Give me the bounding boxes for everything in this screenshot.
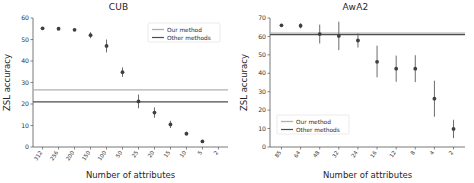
- y-axis-label: ZSL accuracy: [2, 54, 12, 111]
- x-tick-label: 5: [196, 150, 203, 156]
- y-tick-label: 30: [258, 88, 266, 95]
- data-point: [73, 28, 77, 32]
- x-tick-label: 64: [293, 149, 302, 159]
- x-tick-label: 8: [409, 149, 416, 156]
- data-point: [201, 140, 205, 144]
- y-tick-label: 0: [262, 143, 266, 150]
- legend-label-other-methods: Other methods: [167, 35, 211, 41]
- x-tick-label: 312: [33, 150, 44, 162]
- x-tick-label: 2: [212, 150, 219, 156]
- legend-label-our-method: Our method: [167, 27, 202, 33]
- y-tick-label: 10: [21, 122, 29, 129]
- x-tick-label: 15: [162, 150, 171, 159]
- data-point: [185, 132, 189, 136]
- data-point: [57, 27, 61, 31]
- x-tick-label: 48: [312, 149, 321, 159]
- data-point: [153, 111, 157, 115]
- plot-area-cub: 0102030405060312256200150100502520151052…: [0, 0, 237, 183]
- figure-two-panel-chart: CUB 010203040506031225620015010050252015…: [0, 0, 474, 183]
- y-tick-label: 30: [21, 79, 29, 86]
- panel-cub: CUB 010203040506031225620015010050252015…: [0, 0, 237, 183]
- data-point: [375, 60, 379, 64]
- data-point: [356, 39, 360, 43]
- x-tick-label: 12: [388, 150, 397, 159]
- x-tick-label: 2: [447, 150, 454, 156]
- x-axis-label: Number of attributes: [323, 170, 413, 180]
- data-point: [41, 26, 45, 30]
- x-tick-label: 24: [350, 149, 359, 159]
- y-tick-label: 60: [21, 14, 29, 21]
- x-tick-label: 25: [130, 150, 139, 159]
- y-tick-label: 40: [21, 57, 29, 64]
- x-axis-label: Number of attributes: [86, 170, 176, 180]
- y-tick-label: 10: [258, 125, 266, 132]
- legend-label-other-methods: Other methods: [296, 127, 340, 133]
- x-tick-label: 200: [65, 149, 76, 161]
- x-tick-label: 32: [331, 150, 340, 159]
- x-tick-label: 100: [97, 149, 108, 161]
- data-point: [169, 123, 173, 127]
- data-point: [121, 70, 125, 74]
- x-tick-label: 256: [49, 149, 60, 161]
- y-tick-label: 60: [258, 33, 266, 40]
- x-tick-label: 4: [428, 149, 435, 156]
- data-point: [89, 33, 93, 37]
- y-tick-label: 0: [25, 143, 29, 150]
- panel-awa2: AwA2 01020304050607085644832241612842Num…: [237, 0, 474, 183]
- y-axis-label: ZSL accuracy: [239, 54, 249, 111]
- x-tick-label: 20: [146, 149, 155, 159]
- x-tick-label: 50: [114, 149, 123, 159]
- plot-area-awa2: 01020304050607085644832241612842Number o…: [237, 0, 474, 183]
- data-point: [280, 23, 284, 27]
- data-point: [337, 34, 341, 38]
- y-tick-label: 20: [258, 106, 266, 113]
- x-tick-label: 10: [178, 149, 187, 159]
- data-point: [452, 127, 456, 131]
- x-tick-label: 85: [273, 150, 282, 159]
- y-tick-label: 40: [258, 69, 266, 76]
- y-tick-label: 70: [258, 14, 266, 21]
- x-tick-label: 150: [81, 149, 92, 161]
- data-point: [413, 67, 417, 71]
- y-tick-label: 20: [21, 100, 29, 107]
- legend-label-our-method: Our method: [296, 119, 331, 125]
- data-point: [318, 32, 322, 36]
- y-tick-label: 50: [21, 36, 29, 43]
- data-point: [137, 100, 141, 104]
- x-tick-label: 16: [369, 149, 378, 159]
- y-tick-label: 50: [258, 51, 266, 58]
- data-point: [299, 24, 303, 28]
- data-point: [105, 44, 109, 48]
- data-point: [433, 97, 437, 101]
- data-point: [394, 67, 398, 71]
